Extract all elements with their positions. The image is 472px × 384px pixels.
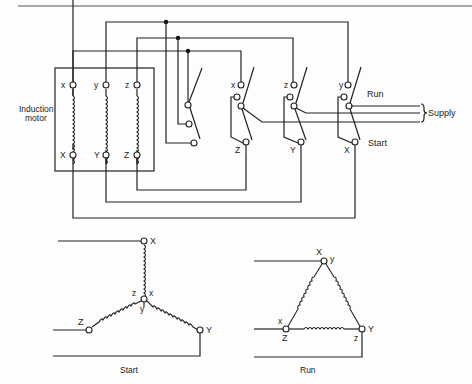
supply-brace <box>421 104 427 122</box>
star-node-Y: Y <box>206 325 212 335</box>
delta-node-Y: Y <box>368 324 374 334</box>
star-caption: Start <box>120 365 139 375</box>
star-delta-diagram: x y z X Y Z Induction motor x Z <box>0 0 472 384</box>
terminal-X <box>70 152 76 158</box>
terminal-x <box>70 82 76 88</box>
changeover-switch-3: y X <box>338 67 361 155</box>
changeover-switch-2: z Y <box>284 67 307 155</box>
switch1-bottom-label: Z <box>235 145 240 155</box>
switch3-top-label: y <box>339 80 344 90</box>
switch2-top-label: z <box>284 80 288 90</box>
supply-label: Supply <box>428 108 456 118</box>
terminal-Y <box>103 152 109 158</box>
switch1-top-label: x <box>231 80 236 90</box>
switch2-bottom-label: Y <box>290 145 296 155</box>
label-y: y <box>94 80 99 90</box>
terminal-Z <box>134 152 140 158</box>
delta-node-z: z <box>354 333 358 343</box>
induction-motor: x y z X Y Z <box>55 0 154 171</box>
run-label: Run <box>367 89 384 99</box>
terminal-y <box>103 82 109 88</box>
star-node-z: z <box>132 288 136 298</box>
motor-label-line2: motor <box>25 113 47 123</box>
star-connection-diagram: X z x y Z Y Start <box>53 236 212 375</box>
label-x: x <box>61 80 66 90</box>
delta-node-Z: Z <box>282 333 288 343</box>
changeover-switch-1: x Z <box>231 67 254 155</box>
label-X: X <box>60 150 66 160</box>
delta-node-x: x <box>278 316 283 326</box>
terminal-z <box>134 82 140 88</box>
label-Z: Z <box>124 150 129 160</box>
star-node-Z: Z <box>78 317 84 327</box>
delta-node-X: X <box>316 247 322 257</box>
start-label: Start <box>368 138 388 148</box>
delta-connection-diagram: X y x Z Y z Run <box>254 247 374 375</box>
label-z: z <box>125 80 129 90</box>
star-node-X: X <box>150 236 156 246</box>
delta-caption: Run <box>300 365 316 375</box>
switch3-bottom-label: X <box>344 145 350 155</box>
star-node-x: x <box>149 288 154 298</box>
label-Y: Y <box>94 150 100 160</box>
delta-node-y: y <box>330 254 335 264</box>
